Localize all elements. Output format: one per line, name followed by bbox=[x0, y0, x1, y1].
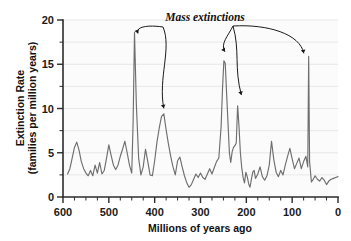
x-tick-label: 0 bbox=[335, 206, 341, 218]
y-tick-label: 20 bbox=[42, 14, 54, 26]
x-tick-label: 200 bbox=[237, 206, 255, 218]
y-tick-label: 0 bbox=[48, 191, 54, 203]
y-axis-title-line1: Extinction Rate bbox=[14, 70, 26, 147]
extinction-rate-chart-figure: 05101520 6005004003002001000 Millions of… bbox=[0, 0, 351, 241]
x-tick-label: 100 bbox=[283, 206, 301, 218]
y-tick-label: 15 bbox=[42, 58, 54, 70]
y-axis-ticks bbox=[57, 20, 63, 197]
y-tick-label: 10 bbox=[42, 103, 54, 115]
mass-extinctions-label: Mass extinctions bbox=[164, 11, 245, 23]
y-axis-tick-labels: 05101520 bbox=[42, 14, 54, 203]
x-axis-title: Millions of years ago bbox=[148, 222, 252, 234]
x-axis-tick-labels: 6005004003002001000 bbox=[54, 206, 341, 218]
x-tick-label: 600 bbox=[54, 206, 72, 218]
y-axis-title-line2: (families per million years) bbox=[26, 42, 38, 174]
x-tick-label: 400 bbox=[145, 206, 163, 218]
x-tick-label: 500 bbox=[100, 206, 118, 218]
x-tick-label: 300 bbox=[191, 206, 209, 218]
x-axis-ticks bbox=[63, 197, 338, 203]
y-tick-label: 5 bbox=[48, 147, 54, 159]
chart-svg-canvas: 05101520 6005004003002001000 Millions of… bbox=[0, 0, 351, 241]
